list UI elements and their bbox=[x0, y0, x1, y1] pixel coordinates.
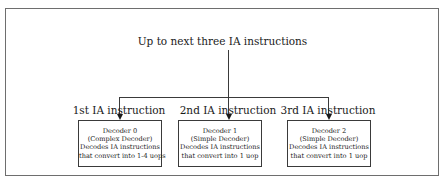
decoder-2-box: Decoder 2 (Simple Decoder) Decodes IA in… bbox=[287, 120, 371, 167]
decoder-desc: that convert into 1 uop bbox=[179, 152, 261, 160]
decoder-name: Decoder 0 bbox=[79, 127, 161, 135]
diagram-title: Up to next three IA instructions bbox=[0, 35, 445, 47]
instruction-label-2: 2nd IA instruction bbox=[173, 104, 283, 116]
trunk-line bbox=[228, 50, 229, 97]
decoder-desc: Decodes IA instructions bbox=[288, 143, 370, 151]
decoder-type: (Complex Decoder) bbox=[79, 135, 161, 143]
decoder-desc: Decodes IA instructions bbox=[179, 143, 261, 151]
decoder-type: (Simple Decoder) bbox=[288, 135, 370, 143]
decoder-name: Decoder 1 bbox=[179, 127, 261, 135]
decoder-type: (Simple Decoder) bbox=[179, 135, 261, 143]
decoder-1-box: Decoder 1 (Simple Decoder) Decodes IA in… bbox=[178, 120, 262, 167]
instruction-label-1: 1st IA instruction bbox=[64, 104, 174, 116]
decoder-desc: that convert into 1 uop bbox=[288, 152, 370, 160]
decoder-desc: that convert into 1-4 uops bbox=[79, 152, 161, 160]
decoder-desc: Decodes IA instructions bbox=[79, 143, 161, 151]
decoder-0-box: Decoder 0 (Complex Decoder) Decodes IA i… bbox=[78, 120, 162, 167]
decoder-name: Decoder 2 bbox=[288, 127, 370, 135]
instruction-label-3: 3rd IA instruction bbox=[273, 104, 383, 116]
bus-line bbox=[119, 97, 329, 98]
